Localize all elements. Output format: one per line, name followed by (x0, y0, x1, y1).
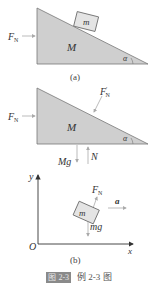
figure-number-badge: 图 2-3 (46, 272, 71, 283)
big-mass-label-b: M (66, 121, 77, 133)
big-mass-label-a: M (66, 41, 77, 53)
small-mass-label-b: m (79, 208, 86, 218)
panel-a: m M α FN (a) (7, 8, 148, 82)
reaction-label-b: F′N (99, 86, 110, 98)
reaction-arrow-b (94, 96, 102, 112)
weight-label-b: Mg (57, 156, 71, 167)
normal-label-small: FN (91, 184, 103, 196)
force-label-b: FN (7, 111, 19, 123)
caption-a: (a) (70, 72, 80, 82)
weight-label-small: mg (90, 221, 102, 232)
figure-caption-text: 例 2-3 图 (77, 272, 112, 282)
figure-caption: 图 2-3例 2-3 图 (0, 270, 158, 283)
caption-b: (b) (70, 255, 81, 265)
x-axis-label: x (127, 246, 132, 256)
wedge-b (37, 88, 148, 144)
accel-label: a (115, 196, 120, 206)
small-mass-label-a: m (83, 17, 90, 27)
force-label-a: FN (7, 31, 19, 43)
origin-label: O (29, 241, 36, 252)
panel-b-top: F′N M α FN Mg N (7, 86, 148, 167)
panel-b-bottom: y x O FN m mg a (b) (28, 171, 133, 265)
figure-canvas: m M α FN (a) F′N M α FN Mg N y x O FN m (0, 0, 158, 290)
y-axis-label: y (28, 171, 34, 182)
normal-label-b: N (90, 151, 99, 162)
